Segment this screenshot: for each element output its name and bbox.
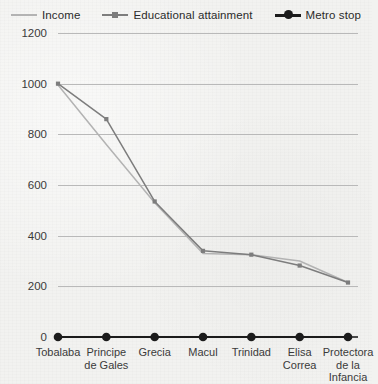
metro-stop-dot[interactable] [54,333,63,342]
data-point-marker[interactable] [201,249,205,253]
metro-stop-dot[interactable] [344,333,353,342]
metro-stop-dot[interactable] [102,333,111,342]
data-point-marker[interactable] [56,82,60,86]
data-point-marker[interactable] [104,117,108,121]
metro-stop-dot[interactable] [295,333,304,342]
series-educational-attainment [56,82,350,285]
data-point-marker[interactable] [153,199,157,203]
metro-stop-dot[interactable] [247,333,256,342]
series-metro-stop [54,333,353,342]
data-point-marker[interactable] [298,263,302,267]
data-point-marker[interactable] [346,280,350,284]
metro-stop-dot[interactable] [199,333,208,342]
metro-stop-dot[interactable] [150,333,159,342]
data-point-marker[interactable] [249,253,253,257]
